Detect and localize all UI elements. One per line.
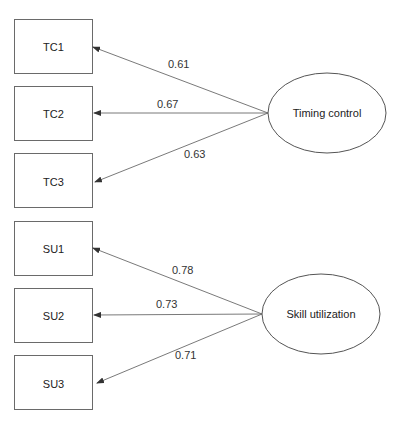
latent-factor-skill-utilization: Skill utilization (262, 274, 380, 354)
indicator-label: TC2 (43, 108, 64, 120)
loading-arrow-su2 (94, 314, 262, 315)
loading-arrow-tc3 (95, 113, 268, 182)
indicator-label: SU1 (43, 243, 64, 255)
path-diagram: TC1 TC2 TC3 0.61 0.67 0.63 Timing contro… (0, 0, 401, 422)
loading-arrow-su1 (93, 248, 262, 314)
indicator-box-tc1: TC1 (15, 20, 93, 74)
indicator-box-su1: SU1 (15, 222, 93, 276)
loading-value: 0.63 (184, 148, 205, 160)
indicator-label: SU2 (43, 310, 64, 322)
loading-arrow-tc1 (93, 47, 268, 113)
indicator-box-su3: SU3 (15, 356, 93, 410)
loading-value: 0.61 (168, 58, 189, 70)
loading-value: 0.71 (175, 349, 196, 361)
factor-group-timing-control: TC1 TC2 TC3 0.61 0.67 0.63 Timing contro… (15, 20, 387, 208)
factor-label: Timing control (293, 107, 362, 119)
latent-factor-timing-control: Timing control (268, 73, 386, 153)
indicator-label: SU3 (43, 378, 64, 390)
loading-value: 0.67 (157, 98, 178, 110)
loading-value: 0.73 (156, 298, 177, 310)
indicator-box-su2: SU2 (15, 289, 93, 343)
indicator-box-tc3: TC3 (15, 154, 93, 208)
loading-value: 0.78 (172, 264, 193, 276)
factor-label: Skill utilization (286, 308, 355, 320)
factor-group-skill-utilization: SU1 SU2 SU3 0.78 0.73 0.71 Skill utiliza… (15, 222, 381, 410)
indicator-box-tc2: TC2 (15, 87, 93, 141)
indicator-label: TC1 (43, 41, 64, 53)
indicator-label: TC3 (43, 176, 64, 188)
